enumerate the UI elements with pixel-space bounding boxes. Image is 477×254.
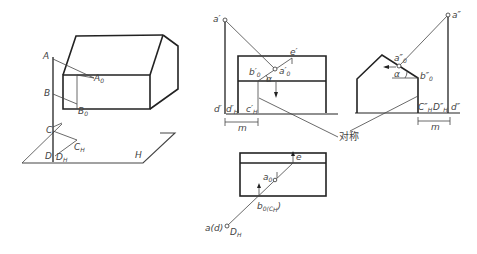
label-dpp: d″: [451, 102, 461, 112]
label-a0: a0: [263, 172, 273, 183]
point-ad: [225, 224, 229, 228]
front-view: a′ e′ b′0 a′0 α d′ d′H c′H m 对称: [213, 14, 359, 142]
label-m-side: m: [431, 122, 440, 132]
house-gable: [150, 35, 178, 109]
point-a0: [273, 178, 277, 182]
label-a2: a″: [452, 10, 462, 20]
label-CHpp: C″H: [418, 102, 433, 113]
alpha-arc-side: [405, 72, 407, 78]
label-a0pp: a″0: [394, 53, 407, 64]
label-dp: d′: [214, 104, 222, 114]
label-b0pp: b″0: [420, 71, 433, 82]
label-DHpp: D″H: [433, 102, 448, 113]
ray-b: [53, 94, 77, 104]
top-view: e a0 b0(CH) a(d) DH: [205, 151, 326, 238]
label-dHp: d′H: [226, 104, 239, 115]
label-DH-top: DH: [230, 227, 242, 238]
ray-front: [225, 20, 275, 69]
house-side-outline: [357, 55, 418, 113]
label-ep: e′: [290, 47, 298, 57]
house-top-outline: [240, 153, 326, 196]
label-B: B: [44, 88, 50, 98]
house-roof: [63, 35, 163, 75]
label-CH: CH: [74, 142, 85, 153]
axonometric-view: A A0 B B0 C CH D DH H: [22, 35, 178, 163]
point-a0pp: [397, 64, 401, 68]
side-view: a″ a″0 b″0 α C″H D″H d″ m: [350, 10, 462, 132]
label-B0: B0: [78, 106, 88, 117]
point-a1: [223, 18, 227, 22]
label-H: H: [135, 150, 142, 160]
house-roof-edge: [150, 35, 163, 75]
label-a0p: a′0: [279, 66, 291, 77]
label-A: A: [42, 51, 49, 61]
label-C: C: [46, 125, 53, 135]
point-a0p: [273, 67, 277, 71]
projection-diagram: A A0 B B0 C CH D DH H a′ e′ b′0: [0, 0, 477, 254]
arrow-head-b0: [257, 183, 261, 188]
label-e: e: [296, 152, 302, 162]
point-a2: [446, 13, 450, 17]
label-alpha-front: α: [266, 74, 272, 84]
label-symmetry: 对称: [339, 130, 359, 142]
arrow-head-side: [383, 65, 389, 69]
label-alpha-side: α: [394, 69, 400, 79]
ray-c: [53, 131, 77, 140]
shadow-line-top: [227, 163, 293, 226]
label-DH: DH: [56, 152, 68, 163]
arrow-head-front: [274, 92, 278, 98]
label-ad: a(d): [205, 223, 223, 233]
label-b0-cH: b0(CH): [257, 201, 281, 213]
label-a1: a′: [213, 14, 221, 24]
label-b0p: b′0: [249, 67, 261, 78]
label-cHp: c′H: [246, 104, 258, 115]
label-m-front: m: [238, 123, 247, 133]
label-D: D: [45, 151, 52, 161]
